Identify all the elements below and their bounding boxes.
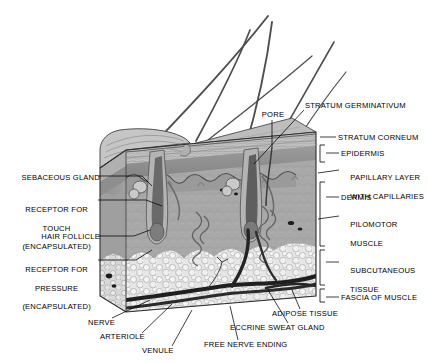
label-pore: PORE [254,110,292,119]
layer-bracket-group [320,145,325,302]
skin-block [96,118,320,320]
label-papillary-line1: PAPILLARY LAYER [350,173,420,182]
label-free-nerve-ending: FREE NERVE ENDING [204,340,308,349]
bracket-dermis [320,182,325,246]
label-pilomotor-line1: PILOMOTOR [350,220,397,229]
label-dermis: DERMIS [341,193,428,202]
label-receptor-pressure-line1: RECEPTOR FOR [25,265,88,274]
label-pilomotor-muscle: PILOMOTOR MUSCLE [341,211,428,257]
label-receptor-pressure-line2: PRESSURE [35,284,78,293]
label-eccrine-sweat-gland: ECCRINE SWEAT GLAND [230,323,348,332]
label-receptor-pressure-line3: (ENCAPSULATED) [22,302,90,311]
label-adipose-tissue: ADIPOSE TISSUE [272,309,362,318]
label-receptor-for-pressure: RECEPTOR FOR PRESSURE (ENCAPSULATED) [4,256,100,320]
label-sebaceous-gland: SEBACEOUS GLAND [8,173,100,182]
label-stratum-germinativum: STRATUM GERMINATIVUM [305,101,428,110]
label-hair-follicle: HAIR FOLLICLE [8,232,100,241]
skin-cross-section-figure: SEBACEOUS GLAND RECEPTOR FOR TOUCH (ENCA… [0,0,428,363]
label-venule: VENULE [142,346,202,355]
label-subcutaneous-line1: SUBCUTANEOUS [350,266,415,275]
hair-follicle-2 [240,148,261,242]
label-arteriole: ARTERIOLE [100,332,170,341]
label-stratum-corneum: STRATUM CORNEUM [338,133,428,142]
label-nerve: NERVE [88,318,148,327]
label-receptor-touch-line1: RECEPTOR FOR [25,205,88,214]
bracket-epidermis [320,145,325,162]
label-papillary-layer: PAPILLARY LAYER WITH CAPILLARIES [341,164,428,210]
bracket-fascia [320,289,325,302]
bracket-subcutaneous [320,250,325,285]
label-epidermis: EPIDERMIS [341,149,428,158]
label-fascia-of-muscle: FASCIA OF MUSCLE [341,293,428,302]
label-receptor-touch-line3: (ENCAPSULATED) [22,242,90,251]
label-receptor-for-touch: RECEPTOR FOR TOUCH (ENCAPSULATED) [4,196,100,260]
label-pilomotor-line2: MUSCLE [350,239,383,248]
